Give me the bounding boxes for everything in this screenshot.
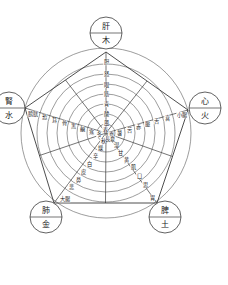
node-water: 腎水 xyxy=(0,92,25,124)
correspondence-label: 春 xyxy=(103,126,108,134)
correspondence-label: 黒 xyxy=(71,123,76,130)
correspondence-label: 赤 xyxy=(136,124,141,130)
correspondence-label: 暑 xyxy=(117,130,122,137)
spoke-vertex-3 xyxy=(54,133,106,203)
node-element-label: 木 xyxy=(102,35,110,45)
node-fire: 心火 xyxy=(189,92,221,124)
correspondence-label: 冬 xyxy=(97,130,102,138)
correspondence-label: 思 xyxy=(143,182,148,188)
node-element-label: 土 xyxy=(161,219,169,229)
correspondence-label: 長夏 xyxy=(105,136,116,143)
correspondence-label: 黄 xyxy=(124,156,129,164)
node-earth: 脾土 xyxy=(149,201,181,233)
correspondence-label: 甘 xyxy=(118,149,123,157)
correspondence-labels: 胆怒眼筋青酸風春小腸喜舌脈赤苦暑夏胃思口肌黄甘湿長夏大腸悲鼻皮白辛燥秋膀胱恐耳骨… xyxy=(27,59,187,203)
correspondence-label: 耳 xyxy=(52,117,57,124)
correspondence-label: 胃 xyxy=(150,195,155,202)
node-element-label: 金 xyxy=(42,219,50,229)
node-metal: 肺金 xyxy=(30,201,62,233)
correspondence-label: 舌 xyxy=(154,117,159,125)
correspondence-label: 肌 xyxy=(131,164,136,171)
correspondence-label: 苦 xyxy=(127,126,132,134)
node-organ-label: 心 xyxy=(201,97,209,106)
correspondence-label: 膀胱 xyxy=(28,110,38,118)
correspondence-label: 悲 xyxy=(69,183,74,190)
correspondence-label: 眼 xyxy=(104,82,109,89)
five-elements-diagram: 胆怒眼筋青酸風春小腸喜舌脈赤苦暑夏胃思口肌黄甘湿長夏大腸悲鼻皮白辛燥秋膀胱恐耳骨… xyxy=(0,0,228,285)
correspondence-label: 骨 xyxy=(62,120,67,126)
node-organ-label: 肝 xyxy=(102,22,110,31)
node-organ-label: 脾 xyxy=(161,205,169,215)
node-organ-label: 腎 xyxy=(5,97,13,106)
correspondence-label: 白 xyxy=(87,160,92,168)
node-organ-label: 肺 xyxy=(42,206,50,215)
correspondence-label: 喜 xyxy=(165,114,170,122)
correspondence-label: 脈 xyxy=(145,120,150,128)
correspondence-label: 皮 xyxy=(81,168,86,176)
correspondence-label: 辛 xyxy=(93,152,98,160)
correspondence-label: 青 xyxy=(104,100,109,108)
correspondence-label: 筋 xyxy=(104,90,109,98)
correspondence-label: 胆 xyxy=(104,59,109,66)
node-wood: 肝木 xyxy=(90,17,122,49)
correspondence-label: 小腸 xyxy=(177,111,187,119)
node-element-label: 水 xyxy=(5,110,13,120)
node-element-label: 火 xyxy=(201,111,209,120)
correspondence-label: 口 xyxy=(137,173,142,180)
correspondence-label: 寒 xyxy=(89,128,94,136)
correspondence-label: 鼻 xyxy=(76,176,81,184)
diagram-canvas: 胆怒眼筋青酸風春小腸喜舌脈赤苦暑夏胃思口肌黄甘湿長夏大腸悲鼻皮白辛燥秋膀胱恐耳骨… xyxy=(0,0,228,285)
correspondence-label: 大腸 xyxy=(60,195,70,203)
